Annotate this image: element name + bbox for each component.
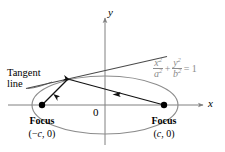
equation-fraction-y: y2 b2 — [172, 58, 182, 79]
focus-left-coordinates: (−c, 0) — [18, 129, 66, 140]
tangent-line-label-line2: line — [7, 78, 23, 89]
equation-den2-exponent: 2 — [178, 67, 181, 74]
focus-left-point — [39, 102, 45, 108]
ray-tangent-point-to-left-focus — [43, 79, 68, 104]
equation-denominator-a: a2 — [153, 69, 163, 79]
focus-right-point — [161, 102, 167, 108]
y-axis-label: y — [108, 7, 113, 19]
focus-left-coord-rest: , 0) — [42, 128, 55, 139]
equation-plus-sign: + — [163, 63, 172, 74]
ellipse-reflection-figure: y x 0 Tangent line Focus (−c, 0) Focus (… — [0, 0, 225, 152]
focus-right-coordinates: (c, 0) — [141, 129, 187, 140]
equation-fraction-x: x2 a2 — [153, 58, 163, 79]
equation-num2-exponent: 2 — [178, 56, 181, 63]
ray-left-arrowhead — [53, 94, 60, 101]
equation-equals-one: = 1 — [182, 63, 198, 74]
ray-right-focus-to-tangent-point — [70, 80, 165, 106]
focus-right-label: Focus — [142, 116, 186, 127]
focus-right-coord-rest: , 0) — [161, 128, 174, 139]
equation-num1-exponent: 2 — [159, 56, 162, 63]
x-axis-label: x — [208, 98, 213, 110]
tangent-line-label-line1: Tangent — [7, 67, 41, 78]
ellipse-equation: x2 a2 + y2 b2 = 1 — [153, 58, 198, 79]
equation-den1-exponent: 2 — [159, 67, 162, 74]
origin-label: 0 — [93, 107, 99, 119]
focus-left-label: Focus — [20, 116, 64, 127]
equation-denominator-b: b2 — [172, 69, 182, 79]
